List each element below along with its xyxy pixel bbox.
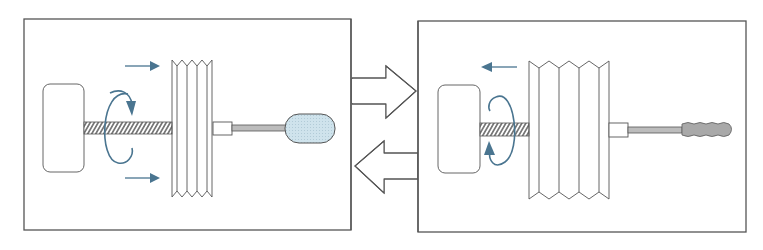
nozzle: [213, 122, 232, 135]
motor-block: [43, 84, 84, 172]
lead-screw: [480, 123, 529, 136]
nozzle: [609, 123, 628, 137]
lead-screw: [84, 122, 172, 134]
rod: [232, 125, 286, 131]
balloon-deflated: [682, 123, 732, 137]
motor-block: [438, 85, 480, 173]
balloon-inflated: [285, 114, 335, 143]
panel-deflate-state: [351, 19, 746, 232]
bellows-mechanism-diagram: [0, 0, 763, 250]
panel-inflate-state: [24, 19, 351, 230]
rod: [628, 127, 682, 133]
